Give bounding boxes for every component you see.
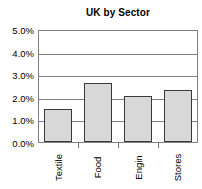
x-tick-label: Textile (53, 154, 64, 181)
y-tick-label: 0.0% (0, 138, 34, 149)
x-tick-label: Engin (133, 155, 144, 179)
plot-area (38, 30, 198, 143)
x-tick-label: Stores (173, 154, 184, 181)
bar-chart: UK by Sector 5.0%4.0%3.0%2.0%1.0%0.0% Te… (0, 0, 202, 189)
x-tick-label-slot: Food (78, 146, 118, 189)
y-tick-label: 5.0% (0, 25, 34, 36)
y-tick-label: 3.0% (0, 70, 34, 81)
x-tick-label-slot: Engin (118, 146, 158, 189)
y-tick-label: 2.0% (0, 92, 34, 103)
x-tick-label-slot: Textile (38, 146, 78, 189)
chart-title: UK by Sector (36, 7, 200, 18)
gridline (39, 121, 197, 122)
x-axis: TextileFoodEnginStores (38, 146, 198, 189)
gridline (39, 76, 197, 77)
x-tick-label-slot: Stores (158, 146, 198, 189)
y-tick-label: 4.0% (0, 47, 34, 58)
y-tick-label: 1.0% (0, 115, 34, 126)
y-axis: 5.0%4.0%3.0%2.0%1.0%0.0% (0, 30, 34, 143)
gridline (39, 99, 197, 100)
x-tick-label: Food (93, 157, 104, 179)
gridline (39, 54, 197, 55)
